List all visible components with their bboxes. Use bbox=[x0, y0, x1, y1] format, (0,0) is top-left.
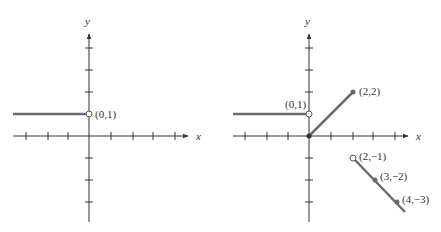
closed-point-3-m2 bbox=[373, 178, 378, 183]
label-3-m2: (3,−2) bbox=[380, 170, 408, 183]
label-2-2: (2,2) bbox=[359, 85, 380, 98]
label-0-1: (0,1) bbox=[95, 108, 116, 121]
y-axis-label: y bbox=[84, 15, 90, 27]
closed-point-2-2 bbox=[351, 90, 356, 95]
curve-segment-2 bbox=[309, 92, 353, 136]
open-point-0-1 bbox=[86, 111, 92, 117]
label-2-m1: (2,−1) bbox=[359, 150, 387, 163]
open-point-0-1 bbox=[306, 111, 312, 117]
y-axis-label: y bbox=[304, 15, 310, 27]
label-0-1: (0,1) bbox=[285, 98, 306, 111]
left-chart: x y (0,1) bbox=[13, 15, 201, 222]
figure: x y (0,1) x y (0,1) bbox=[0, 0, 441, 232]
x-axis-label: x bbox=[195, 130, 201, 142]
label-4-m3: (4,−3) bbox=[402, 193, 430, 206]
x-axis-label: x bbox=[415, 130, 421, 142]
right-chart: x y (0,1) (2,2) (2,−1) (3,−2) (4,−3) bbox=[233, 15, 430, 222]
closed-point-4-m3 bbox=[395, 200, 400, 205]
open-point-2-m1 bbox=[350, 155, 356, 161]
closed-point-0-0 bbox=[307, 134, 312, 139]
